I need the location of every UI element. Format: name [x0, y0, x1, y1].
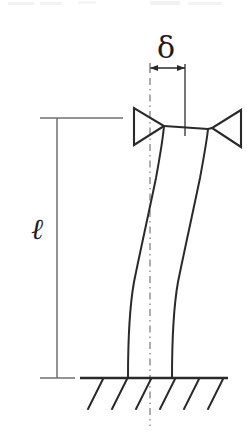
column-top-cap — [164, 126, 212, 129]
arrowhead-right-icon — [177, 65, 185, 71]
buckled-column-shape — [128, 126, 208, 378]
ground-hatching-icon — [88, 379, 223, 409]
fixed-base-ground — [80, 378, 228, 409]
pin-support-left-icon — [134, 108, 164, 145]
column-edge-right — [172, 129, 208, 378]
arrowhead-left-icon — [150, 65, 158, 71]
length-label: ℓ — [31, 215, 43, 244]
figure-root: δ ℓ — [0, 0, 247, 436]
length-dimension-line — [40, 118, 123, 378]
deflection-dimension-line — [150, 63, 185, 136]
pin-support-right-icon — [212, 110, 241, 147]
scan-artifacts — [8, 1, 222, 5]
deflection-label: δ — [157, 33, 175, 63]
column-edge-left — [128, 126, 164, 378]
